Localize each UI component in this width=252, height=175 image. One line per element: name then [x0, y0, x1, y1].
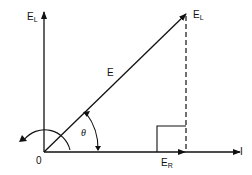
theta-arrow-top	[83, 111, 90, 117]
origin-label: 0	[36, 156, 42, 166]
er-arrowhead	[178, 149, 186, 155]
el-tip-main: E	[193, 9, 200, 20]
theta-arrow-bottom	[95, 146, 101, 151]
el-sub: L	[34, 16, 38, 23]
angle-label: θ	[81, 128, 86, 138]
diagram-drawing	[0, 0, 252, 175]
hypotenuse-label: E	[107, 68, 114, 78]
resistive-label: ER	[161, 158, 173, 169]
er-sub: R	[168, 162, 173, 169]
e-vector	[44, 14, 186, 152]
theta-arc	[86, 113, 98, 150]
vertical-axis-label: EL	[27, 12, 38, 23]
tip-label: EL	[193, 10, 204, 21]
el-main: E	[27, 11, 34, 22]
er-main: E	[161, 157, 168, 168]
right-angle-marker	[157, 126, 186, 152]
phasor-diagram: EL EL E θ 0 ER I	[0, 0, 252, 175]
el-tip-sub: L	[200, 14, 204, 21]
current-axis-label: I	[240, 147, 243, 157]
